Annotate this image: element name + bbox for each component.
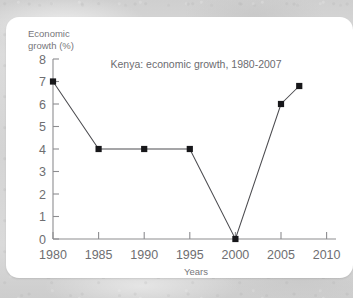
- figure-card: Economic growth (%) Kenya: economic grow…: [6, 17, 353, 278]
- y-axis-tick-labels: 8 7 6 5 4 3 2 1 0: [39, 53, 46, 247]
- x-tick-label: 2010: [313, 248, 341, 262]
- y-tick-label: 2: [39, 188, 46, 202]
- y-tick-label: 7: [39, 75, 46, 89]
- y-tick-label: 8: [39, 53, 46, 67]
- y-tick-label: 4: [39, 143, 46, 157]
- y-axis-title-line1: Economic: [28, 28, 70, 39]
- line-chart: Economic growth (%) Kenya: economic grow…: [6, 17, 353, 278]
- data-point-marker: [187, 146, 193, 152]
- x-axis-ticks: [53, 232, 327, 239]
- data-point-marker: [141, 146, 147, 152]
- y-tick-label: 3: [39, 165, 46, 179]
- x-tick-label: 2000: [221, 248, 249, 262]
- series-polyline: [53, 82, 299, 240]
- data-series: [50, 78, 302, 242]
- y-tick-label: 0: [39, 233, 46, 247]
- y-tick-label: 6: [39, 98, 46, 112]
- y-tick-label: 1: [39, 210, 46, 224]
- data-point-marker: [50, 78, 56, 84]
- x-tick-label: 1980: [39, 248, 67, 262]
- data-point-marker: [96, 146, 102, 152]
- x-axis-title: Years: [184, 266, 208, 277]
- chart-title: Kenya: economic growth, 1980-2007: [110, 58, 281, 70]
- chart-svg: Economic growth (%) Kenya: economic grow…: [6, 17, 353, 278]
- x-tick-label: 1985: [85, 248, 113, 262]
- x-tick-label: 2005: [267, 248, 295, 262]
- data-point-marker: [278, 101, 284, 107]
- series-markers: [50, 78, 302, 242]
- x-tick-label: 1995: [176, 248, 204, 262]
- page-background: Economic growth (%) Kenya: economic grow…: [0, 0, 353, 298]
- x-axis-tick-labels: 1980 1985 1990 1995 2000 2005 2010: [39, 248, 340, 262]
- x-tick-label: 1990: [130, 248, 158, 262]
- data-point-marker: [296, 83, 302, 89]
- y-axis-title-line2: growth (%): [28, 40, 74, 51]
- data-point-marker: [232, 236, 238, 242]
- y-tick-label: 5: [39, 120, 46, 134]
